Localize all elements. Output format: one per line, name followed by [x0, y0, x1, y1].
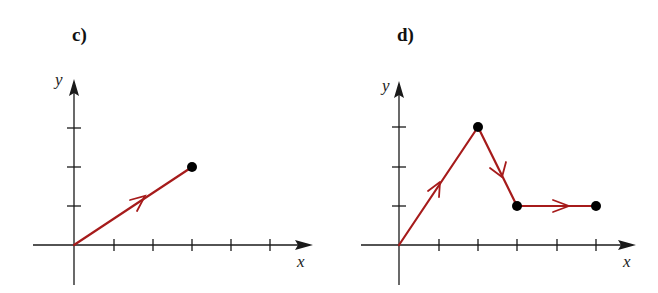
point-marker	[591, 201, 601, 211]
panel-d: d) y x	[329, 0, 658, 293]
point-marker	[512, 201, 522, 211]
plot-d	[329, 0, 658, 293]
path-d	[399, 127, 596, 245]
point-marker	[473, 122, 483, 132]
direction-arrow-icon-1	[428, 182, 440, 197]
axes-c	[33, 90, 306, 285]
panel-c: c) y x	[0, 0, 329, 293]
axes-d	[361, 92, 629, 285]
point-marker	[187, 162, 197, 172]
plot-c	[0, 0, 329, 293]
path-c	[74, 167, 192, 245]
